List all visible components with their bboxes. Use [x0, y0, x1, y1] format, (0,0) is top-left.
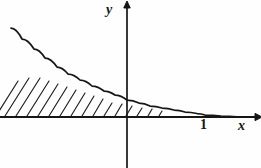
hatch-line	[16, 78, 40, 116]
y-axis-label: y	[106, 3, 112, 17]
axis-lines	[0, 1, 261, 168]
hatch-line	[159, 111, 162, 116]
hatched-area	[0, 78, 162, 116]
x-tick-label-one: 1	[200, 118, 207, 132]
y-axis-arrowhead	[124, 1, 130, 8]
hatch-line	[115, 104, 122, 116]
hatch-line	[38, 84, 58, 116]
hatch-line	[0, 81, 18, 116]
hatch-line	[104, 103, 112, 116]
hatch-line	[137, 108, 142, 116]
hatch-line	[49, 87, 67, 116]
figure-canvas	[0, 0, 261, 168]
exponential-decay-curve	[11, 28, 252, 117]
hatch-line	[27, 81, 49, 116]
hatch-line	[71, 93, 85, 116]
hatch-line	[93, 99, 103, 116]
x-axis-arrowhead	[255, 113, 261, 120]
x-axis-label: x	[238, 119, 245, 133]
hatch-line	[82, 96, 94, 116]
math-figure: y x 1	[0, 0, 261, 168]
hatch-line	[148, 109, 152, 116]
